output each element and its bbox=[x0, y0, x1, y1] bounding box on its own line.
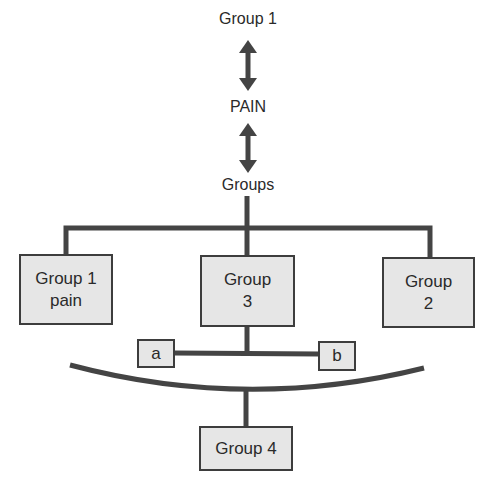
box-label: Group bbox=[224, 269, 271, 291]
box-label: Group bbox=[405, 271, 452, 293]
pain-label: PAIN bbox=[230, 98, 266, 116]
top-label: Group 1 bbox=[219, 10, 277, 28]
groups-label: Groups bbox=[222, 176, 274, 194]
box-a: a bbox=[137, 339, 175, 368]
box-group4: Group 4 bbox=[199, 426, 293, 471]
box-label: 2 bbox=[405, 293, 452, 315]
box-label: 3 bbox=[224, 291, 271, 313]
box-group3: Group 3 bbox=[200, 255, 295, 327]
double-arrow-icon bbox=[239, 40, 257, 91]
box-label: Group 4 bbox=[215, 438, 276, 460]
ab-connector bbox=[174, 353, 319, 354]
box-group2: Group 2 bbox=[382, 257, 475, 328]
connector-lines bbox=[0, 0, 499, 483]
arc-line bbox=[70, 365, 424, 389]
box-b: b bbox=[318, 341, 356, 371]
box-label: pain bbox=[35, 290, 96, 312]
box-label: Group 1 bbox=[35, 268, 96, 290]
box-group1-pain: Group 1 pain bbox=[19, 254, 113, 325]
box-label: b bbox=[332, 345, 341, 367]
box-label: a bbox=[151, 343, 160, 365]
double-arrow-icon bbox=[239, 123, 257, 173]
